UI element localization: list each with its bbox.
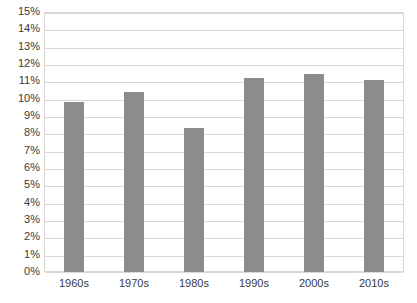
y-tick-label: 11%: [2, 75, 40, 86]
x-tick-label: 2000s: [284, 277, 344, 290]
bar-chart: 0%1%2%3%4%5%6%7%8%9%10%11%12%13%14%15% 1…: [0, 0, 417, 303]
y-tick-label: 1%: [2, 249, 40, 260]
y-tick-label: 6%: [2, 162, 40, 173]
y-tick-label: 5%: [2, 179, 40, 190]
bar[interactable]: [304, 74, 324, 272]
bar[interactable]: [64, 102, 84, 272]
y-axis: 0%1%2%3%4%5%6%7%8%9%10%11%12%13%14%15%: [0, 0, 40, 303]
x-tick-label: 2010s: [344, 277, 404, 290]
bar-slot: [44, 12, 104, 272]
y-tick-label: 8%: [2, 127, 40, 138]
bar[interactable]: [124, 92, 144, 272]
bar[interactable]: [364, 80, 384, 272]
y-tick-label: 15%: [2, 6, 40, 17]
y-tick-label: 9%: [2, 110, 40, 121]
y-tick-label: 13%: [2, 41, 40, 52]
bar-slot: [284, 12, 344, 272]
x-tick-label: 1980s: [164, 277, 224, 290]
y-tick-label: 14%: [2, 23, 40, 34]
bar-slot: [164, 12, 224, 272]
y-tick-label: 2%: [2, 231, 40, 242]
x-axis: 1960s1970s1980s1990s2000s2010s: [44, 277, 404, 297]
y-tick-label: 10%: [2, 93, 40, 104]
bar-slot: [224, 12, 284, 272]
y-tick-label: 3%: [2, 214, 40, 225]
x-tick-label: 1990s: [224, 277, 284, 290]
x-tick-label: 1970s: [104, 277, 164, 290]
bar[interactable]: [244, 78, 264, 272]
bars-layer: [44, 12, 404, 272]
bar-slot: [344, 12, 404, 272]
gridline: [45, 272, 403, 273]
y-tick-label: 12%: [2, 58, 40, 69]
y-tick-label: 4%: [2, 197, 40, 208]
bar-slot: [104, 12, 164, 272]
y-tick-label: 0%: [2, 266, 40, 277]
y-tick-label: 7%: [2, 145, 40, 156]
bar[interactable]: [184, 128, 204, 272]
x-tick-label: 1960s: [44, 277, 104, 290]
